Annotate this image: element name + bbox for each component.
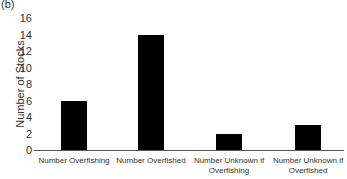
x-tick-label: Number Overfished <box>106 156 196 166</box>
x-tick-label-line: Number Unknown if <box>184 156 274 166</box>
y-tick-label: 2 <box>12 128 32 140</box>
bar <box>216 134 242 151</box>
y-tick-label: 4 <box>12 111 32 123</box>
x-tick-label: Number Unknown ifOverfished <box>263 156 347 176</box>
y-tick-label: 16 <box>12 12 32 24</box>
y-tick-label: 12 <box>12 45 32 57</box>
y-tick-label: 0 <box>12 144 32 156</box>
bar <box>61 101 87 151</box>
x-tick-label-line: Number Overfished <box>106 156 196 166</box>
y-tick-label: 14 <box>12 29 32 41</box>
y-tick-label: 6 <box>12 95 32 107</box>
panel-label: (b) <box>1 0 14 10</box>
x-axis-line <box>34 150 344 151</box>
bar <box>138 35 164 151</box>
y-tick-label: 10 <box>12 62 32 74</box>
x-tick-label-line: Overfished <box>263 166 347 176</box>
y-tick-label: 8 <box>12 78 32 90</box>
x-tick-label-line: Number Unknown if <box>263 156 347 166</box>
x-tick-label: Number Unknown ifOverfishing <box>184 156 274 176</box>
x-tick-label-line: Overfishing <box>184 166 274 176</box>
bar <box>295 125 321 150</box>
